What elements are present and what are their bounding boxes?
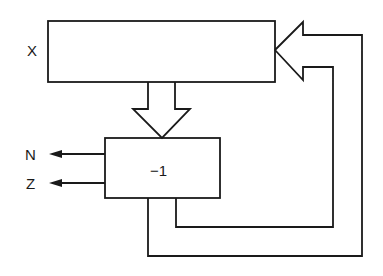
- n-arrowhead-icon: [49, 150, 62, 158]
- z-output-label: Z: [26, 175, 35, 192]
- register-x-box: [48, 21, 275, 82]
- z-arrowhead-icon: [49, 179, 62, 187]
- n-output-label: N: [25, 146, 36, 163]
- feedback-outer-line: [148, 22, 362, 256]
- decrementer-label: −1: [150, 162, 167, 179]
- register-x-label: X: [27, 42, 37, 59]
- wide-down-arrow: [133, 82, 190, 138]
- register-decrement-diagram: X −1 N Z: [0, 0, 383, 276]
